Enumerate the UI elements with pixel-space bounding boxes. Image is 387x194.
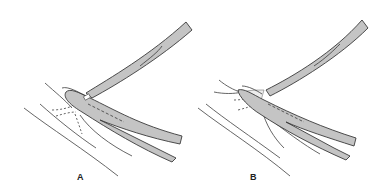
lower-forceps xyxy=(238,86,356,160)
panel-a-illustration xyxy=(0,0,194,194)
panel-label-b: B xyxy=(250,172,257,182)
panel-b-illustration xyxy=(194,0,387,194)
panel-a: A xyxy=(0,0,194,194)
panel-label-a: A xyxy=(77,172,84,182)
upper-forceps xyxy=(86,22,192,98)
panel-b: B xyxy=(194,0,387,194)
upper-forceps xyxy=(266,20,368,96)
